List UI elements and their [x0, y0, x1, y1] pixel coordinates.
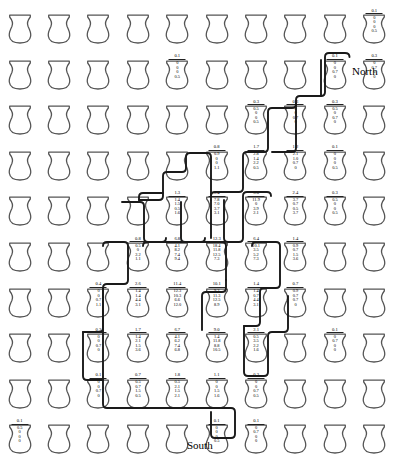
- grid-cell: [0, 137, 39, 183]
- grid-cell: [355, 319, 394, 365]
- cell-quadrant-values: 0.90.71.53.6: [293, 244, 299, 262]
- vessel-icon: [6, 104, 33, 135]
- grid-cell: 0.10000.5: [355, 0, 394, 46]
- vessel-icon: [361, 332, 388, 363]
- vessel-icon: [243, 59, 270, 90]
- grid-cell: 1.80.52.11.52.1: [158, 365, 197, 411]
- grid-cell: 9.01.411.88.810.5: [197, 319, 236, 365]
- cell-quadrant-values: 0000.5: [372, 16, 378, 34]
- cell-value-q4: 8.9: [213, 303, 221, 308]
- grid-cell: [276, 319, 315, 365]
- grid-cell: [355, 182, 394, 228]
- vessel-icon: [361, 195, 388, 226]
- grid-cell: [79, 0, 118, 46]
- cell-quadrant-values: 7.87.03.73.1: [214, 198, 220, 216]
- cell-quadrant-values: 2.81.42.20.5: [253, 152, 259, 170]
- grid-cell: [0, 46, 39, 92]
- grid-cell: [79, 182, 118, 228]
- cell-quadrant-values: 0000.5: [175, 61, 181, 79]
- grid-cell: [39, 91, 78, 137]
- vessel-icon: [321, 378, 348, 409]
- cell-quadrant-values: 0.5000.5: [253, 107, 259, 125]
- vessel-icon: [85, 150, 112, 181]
- cell-value-q4: 2.1: [252, 211, 260, 216]
- vessel-icon: [361, 150, 388, 181]
- cell-quadrant-values: 2.11.00.70: [293, 152, 299, 170]
- grid-cell: 1.22.11.00.70: [276, 137, 315, 183]
- vessel-icon: [203, 59, 230, 90]
- cell-value-q4: 12.0: [173, 303, 181, 308]
- cell-quadrant-values: 18.411.812.57.3: [213, 244, 221, 262]
- vessel-icon: [124, 423, 151, 454]
- grid-cell: 0.10000.5: [315, 137, 354, 183]
- cell-value-q4: 1.6: [253, 348, 259, 353]
- vessel-icon: [85, 241, 112, 272]
- grid-cell: [276, 410, 315, 456]
- grid-cell: 0.3000.70: [79, 319, 118, 365]
- cell-value-q4: 3.6: [135, 348, 141, 353]
- cell-value-q4: 2.1: [175, 394, 181, 399]
- cell-quadrant-values: 0.5000.5: [332, 198, 338, 216]
- cell-value-q4: 3.1: [135, 303, 141, 308]
- grid-cell: [355, 365, 394, 411]
- vessel-icon: [85, 195, 112, 226]
- grid-cell: [39, 274, 78, 320]
- cell-value-q4: 6.8: [175, 348, 181, 353]
- grid-cell: 0.70.50.71.50.5: [118, 365, 157, 411]
- grid-cell: 0.3000.70: [276, 91, 315, 137]
- cell-value-q4: 0.5: [253, 120, 259, 125]
- cell-value-q4: 0.5: [372, 29, 378, 34]
- cell-quadrant-values: 0.502.21.1: [135, 244, 141, 262]
- vessel-icon: [361, 104, 388, 135]
- cell-quadrant-values: 0.5000: [17, 426, 23, 444]
- cell-value-q4: 0.5: [253, 166, 259, 171]
- vessel-icon: [6, 150, 33, 181]
- cell-quadrant-values: 000.70.5: [253, 380, 259, 398]
- north-label: North: [352, 66, 378, 77]
- cell-quadrant-values: 9.211.312.58.9: [213, 289, 221, 307]
- cell-quadrant-values: 000.70: [332, 61, 338, 79]
- cell-quadrant-values: 00.700: [253, 426, 259, 444]
- grid-cell: 12.318.411.812.57.3: [197, 228, 236, 274]
- cell-quadrant-values: 0.53.52.21.6: [253, 335, 259, 353]
- vessel-grid: 0.10000.50.10000.50.1000.700.300.7000.30…: [0, 0, 394, 456]
- grid-cell: [158, 0, 197, 46]
- grid-cell: [118, 46, 157, 92]
- grid-cell: [197, 0, 236, 46]
- vessel-icon: [6, 332, 33, 363]
- cell-quadrant-values: 12.310.36.612.0: [173, 289, 181, 307]
- grid-cell: [315, 365, 354, 411]
- vessel-icon: [124, 13, 151, 44]
- grid-cell: [355, 137, 394, 183]
- spatial-glyph-figure: 0.10000.50.10000.50.1000.700.300.7000.30…: [0, 0, 394, 456]
- grid-cell: [158, 91, 197, 137]
- vessel-icon: [46, 195, 73, 226]
- vessel-icon: [6, 378, 33, 409]
- vessel-icon: [6, 287, 33, 318]
- vessel-icon: [6, 13, 33, 44]
- vessel-icon: [282, 13, 309, 44]
- cell-value-q4: 10.5: [213, 348, 221, 353]
- vessel-icon: [361, 287, 388, 318]
- cell-value-q4: 0: [332, 75, 338, 80]
- grid-cell: [118, 182, 157, 228]
- grid-cell: [79, 91, 118, 137]
- south-label: South: [187, 440, 213, 451]
- vessel-icon: [164, 150, 191, 181]
- grid-cell: [355, 228, 394, 274]
- grid-cell: 0.4000.71.1: [79, 274, 118, 320]
- cell-value-q4: 0: [253, 439, 259, 444]
- vessel-icon: [124, 195, 151, 226]
- grid-cell: 0.80.502.21.1: [118, 228, 157, 274]
- vessel-icon: [203, 13, 230, 44]
- grid-cell: [118, 137, 157, 183]
- cell-quadrant-values: 000.70: [293, 107, 299, 125]
- grid-cell: [276, 365, 315, 411]
- grid-cell: [315, 228, 354, 274]
- grid-cell: 6.84.18.27.49.4: [158, 228, 197, 274]
- grid-cell: 5.011.903.92.1: [236, 182, 275, 228]
- vessel-icon: [361, 241, 388, 272]
- grid-cell: [118, 91, 157, 137]
- grid-cell: [79, 410, 118, 456]
- cell-value-q4: 1.6: [175, 211, 181, 216]
